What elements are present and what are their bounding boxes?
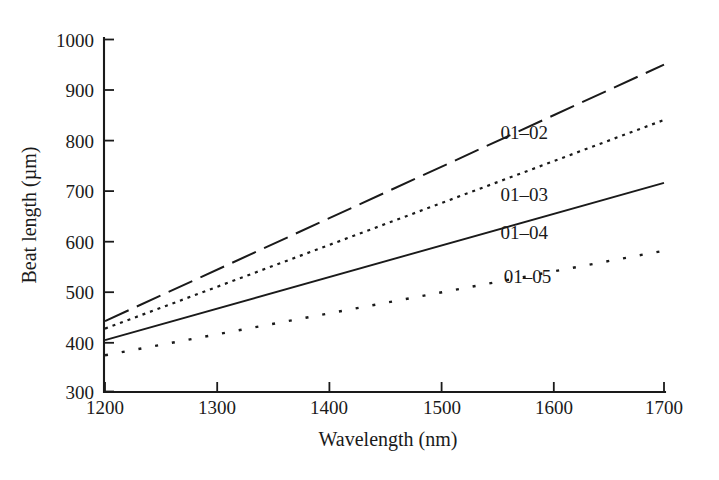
chart-figure: 1000 900 800 700 600 500 400 300 1200 13… — [0, 0, 719, 480]
x-axis-title: Wavelength (nm) — [319, 428, 458, 451]
y-tick-label-400: 400 — [66, 333, 95, 354]
series-label-01-04: 01–04 — [501, 222, 549, 243]
series-line-01-03 — [105, 120, 664, 329]
series-line-01-04 — [105, 183, 664, 340]
axis-spines — [104, 38, 665, 392]
y-tick-label-800: 800 — [66, 131, 95, 152]
series-annotations: 01–02 01–03 01–04 01–05 — [501, 122, 552, 288]
y-tick-label-700: 700 — [66, 181, 95, 202]
series-lines — [105, 65, 664, 356]
x-tick-marks — [105, 382, 664, 392]
series-line-01-02 — [105, 65, 664, 321]
y-tick-label-600: 600 — [66, 232, 95, 253]
series-label-01-02: 01–02 — [501, 122, 549, 143]
series-label-01-05: 01–05 — [504, 266, 552, 287]
series-line-01-05 — [105, 251, 664, 356]
x-tick-label-1500: 1500 — [423, 397, 461, 418]
x-tick-label-1700: 1700 — [645, 397, 683, 418]
x-tick-label-1200: 1200 — [86, 397, 124, 418]
y-tick-label-900: 900 — [66, 80, 95, 101]
y-tick-label-500: 500 — [66, 282, 95, 303]
x-tick-label-1400: 1400 — [310, 397, 348, 418]
x-tick-label-1600: 1600 — [535, 397, 573, 418]
line-chart: 1000 900 800 700 600 500 400 300 1200 13… — [0, 0, 719, 480]
y-tick-label-1000: 1000 — [56, 30, 94, 51]
x-tick-label-1300: 1300 — [198, 397, 236, 418]
series-label-01-03: 01–03 — [501, 184, 549, 205]
y-axis-title: Beat length (µm) — [18, 146, 41, 283]
